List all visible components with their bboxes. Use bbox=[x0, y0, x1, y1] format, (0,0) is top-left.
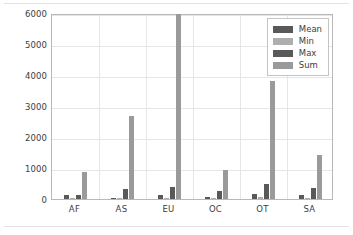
legend-label: Min bbox=[299, 37, 314, 46]
x-tick-label-sa: SA bbox=[304, 204, 316, 214]
bar-sa-max bbox=[311, 188, 316, 199]
gridline-vertical bbox=[146, 15, 147, 199]
legend-swatch-icon bbox=[273, 26, 293, 33]
chart-figure: 0100020003000400050006000 AFASEUOCOTSA M… bbox=[0, 0, 353, 235]
gridline-horizontal bbox=[52, 170, 332, 171]
gridline-vertical bbox=[99, 15, 100, 199]
x-tick-label-eu: EU bbox=[162, 204, 174, 214]
legend-label: Sum bbox=[299, 61, 318, 70]
gridline-horizontal bbox=[52, 77, 332, 78]
plot-area: MeanMinMaxSum bbox=[51, 14, 333, 200]
y-tick-label: 1000 bbox=[25, 164, 47, 174]
page-rule-top bbox=[4, 3, 349, 4]
bar-af-mean bbox=[64, 195, 69, 199]
legend-item-min[interactable]: Min bbox=[273, 35, 322, 47]
legend-swatch-icon bbox=[273, 38, 293, 45]
chart-legend[interactable]: MeanMinMaxSum bbox=[267, 18, 329, 76]
y-tick-label: 0 bbox=[41, 195, 47, 205]
gridline-horizontal bbox=[52, 15, 332, 16]
bar-sa-mean bbox=[299, 195, 304, 199]
gridline-horizontal bbox=[52, 139, 332, 140]
page-rule-bottom bbox=[4, 226, 349, 227]
bar-as-sum bbox=[129, 116, 134, 199]
bar-ot-sum bbox=[270, 81, 275, 199]
gridline-vertical bbox=[240, 15, 241, 199]
legend-item-mean[interactable]: Mean bbox=[273, 23, 322, 35]
legend-item-sum[interactable]: Sum bbox=[273, 59, 322, 71]
y-tick-label: 4000 bbox=[25, 71, 47, 81]
legend-item-max[interactable]: Max bbox=[273, 47, 322, 59]
legend-swatch-icon bbox=[273, 62, 293, 69]
bar-ot-mean bbox=[252, 194, 257, 199]
x-tick-label-oc: OC bbox=[209, 204, 222, 214]
y-tick-label: 3000 bbox=[25, 102, 47, 112]
y-tick-label: 6000 bbox=[25, 9, 47, 19]
bar-oc-min bbox=[211, 198, 216, 199]
bar-eu-min bbox=[164, 198, 169, 199]
bar-af-max bbox=[76, 195, 81, 199]
bar-eu-sum bbox=[176, 14, 181, 199]
bar-ot-min bbox=[258, 197, 263, 199]
legend-label: Max bbox=[299, 49, 317, 58]
bar-oc-sum bbox=[223, 170, 228, 199]
legend-label: Mean bbox=[299, 25, 322, 34]
bar-oc-mean bbox=[205, 197, 210, 199]
bar-sa-min bbox=[305, 198, 310, 199]
bar-af-sum bbox=[82, 172, 87, 199]
bar-as-max bbox=[123, 189, 128, 199]
bar-af-min bbox=[70, 198, 75, 199]
y-tick-label: 5000 bbox=[25, 40, 47, 50]
bar-as-mean bbox=[111, 198, 116, 199]
x-tick-label-ot: OT bbox=[256, 204, 268, 214]
bar-sa-sum bbox=[317, 155, 322, 199]
gridline-horizontal bbox=[52, 108, 332, 109]
bar-eu-max bbox=[170, 187, 175, 199]
bar-as-min bbox=[117, 198, 122, 199]
y-tick-label: 2000 bbox=[25, 133, 47, 143]
bar-oc-max bbox=[217, 191, 222, 199]
bar-eu-mean bbox=[158, 195, 163, 199]
legend-swatch-icon bbox=[273, 50, 293, 57]
gridline-vertical bbox=[193, 15, 194, 199]
x-tick-label-af: AF bbox=[69, 204, 80, 214]
x-tick-label-as: AS bbox=[116, 204, 128, 214]
bar-ot-max bbox=[264, 184, 269, 199]
